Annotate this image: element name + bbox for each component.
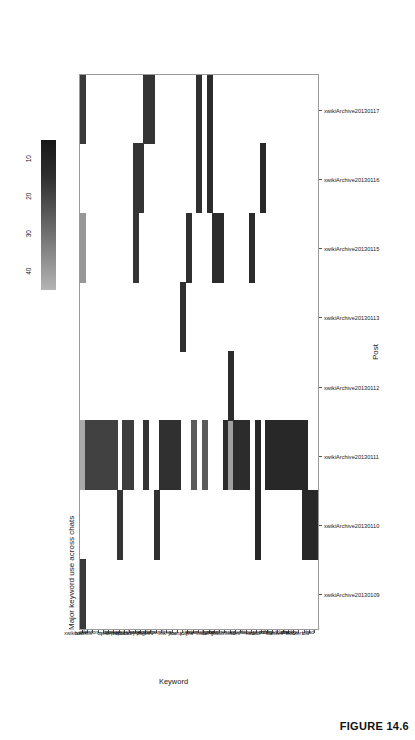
heatmap-cell [217,213,223,283]
heatmap-cell [196,144,202,214]
x-axis-label: Post [371,74,380,630]
heatmap-cell [312,490,318,560]
heatmap-cell [80,559,86,629]
post-tick-label: xwikiArchive20130117 [324,109,379,115]
figure-page: 40302010 Major keyword use across chats … [0,0,415,740]
post-tick [319,179,322,180]
post-tick-label: xwikiArchive20130112 [324,386,379,392]
colorbar: 40302010 [25,140,59,290]
heatmap-cell [180,282,186,352]
heatmap-cell [138,144,144,214]
colorbar-tick-labels: 40302010 [25,140,40,290]
post-tick [319,317,322,318]
heatmap-cell [80,74,86,144]
colorbar-tick-label: 10 [25,155,32,162]
post-tick [319,387,322,388]
post-tick [319,456,322,457]
heatmap-cell [249,213,255,283]
post-tick-label: xwikiArchive20130110 [324,524,379,530]
heatmap-cell [228,351,234,421]
heatmap-cell [206,144,212,214]
heatmap-cell [201,421,207,491]
heatmap-cell [127,421,133,491]
post-tick-label: xwikiArchive20130116 [324,178,379,184]
post-tick [319,525,322,526]
heatmap-cell [111,421,117,491]
post-axis-ticks: Post xwikiArchive20130109xwikiArchive201… [319,74,389,630]
heatmap-cell [196,74,202,144]
post-tick [319,110,322,111]
heatmap-cell [185,213,191,283]
colorbar-gradient [41,140,56,290]
keyword-tick-label: blockers [285,631,304,636]
heatmap-plot-area [79,74,319,630]
post-tick-label: xwikiArchive20130113 [324,316,379,322]
post-tick [319,594,322,595]
post-tick-label: xwikiArchive20130109 [324,593,380,599]
figure-caption: FIGURE 14.6 [340,720,409,732]
post-tick-label: xwikiArchive20130111 [324,455,379,461]
keyword-axis-ticks: xwikibotwikiwebxmlversiontrytreetimesynt… [79,630,319,690]
heatmap-cell [148,74,154,144]
heatmap-cell [206,74,212,144]
colorbar-tick-label: 20 [25,193,32,200]
y-axis-label: Keyword [158,677,187,686]
heatmap-cell [154,490,160,560]
keyword-tick-label: markdown [137,631,160,636]
heatmap-cell [80,213,86,283]
colorbar-tick-label: 40 [25,268,32,275]
chart-title: Major keyword use across chats [67,70,76,630]
heatmap-cell [243,421,249,491]
keyword-tick-label: version [81,631,97,636]
heatmap-cell [132,213,138,283]
heatmap-cell [302,421,308,491]
post-tick-label: xwikiArchive20130115 [324,247,379,253]
heatmap-cell [254,490,260,560]
keyword-tick-label: bad [306,631,314,636]
heatmap-cell [143,421,149,491]
rotated-figure: 40302010 Major keyword use across chats … [19,50,397,690]
heatmap-cell [191,421,197,491]
post-tick [319,248,322,249]
heatmap-cell [117,490,123,560]
heatmap-cell [259,144,265,214]
heatmap-cell [175,421,181,491]
colorbar-tick-label: 30 [25,230,32,237]
heatmap-cell [254,421,260,491]
